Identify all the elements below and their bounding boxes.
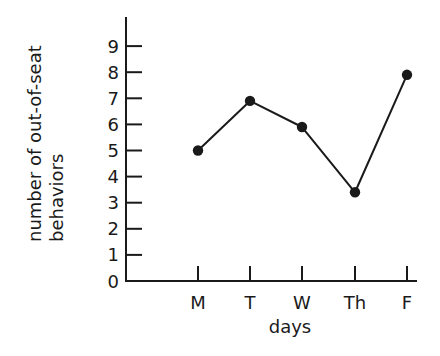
y-tick-label: 3	[108, 192, 119, 213]
y-tick-label: 0	[108, 271, 119, 292]
y-axis-title-line: behaviors	[46, 154, 67, 242]
x-tick-label: T	[244, 292, 257, 313]
x-axis: MTWThF	[125, 266, 417, 313]
x-tick-label: W	[293, 292, 311, 313]
x-axis-title: days	[269, 316, 312, 337]
y-tick-label: 4	[108, 166, 119, 187]
y-axis: 0123456789	[108, 17, 142, 292]
data-point-marker	[402, 70, 412, 80]
data-point-marker	[350, 187, 360, 197]
series-line	[198, 75, 407, 192]
data-point-marker	[245, 96, 255, 106]
line-chart: number of out-of-seatbehaviors 012345678…	[0, 0, 440, 356]
x-tick-label: F	[402, 292, 412, 313]
x-tick-label: M	[190, 292, 206, 313]
y-tick-label: 9	[108, 36, 119, 57]
x-tick-label: Th	[343, 292, 366, 313]
data-point-marker	[297, 122, 307, 132]
y-tick-label: 1	[108, 244, 119, 265]
y-tick-label: 7	[108, 88, 119, 109]
y-axis-title: number of out-of-seatbehaviors	[24, 45, 67, 242]
y-tick-label: 8	[108, 62, 119, 83]
y-tick-label: 2	[108, 218, 119, 239]
y-axis-title-line: number of out-of-seat	[24, 45, 45, 242]
data-point-marker	[193, 145, 203, 155]
x-axis-title-text: days	[269, 316, 312, 337]
y-tick-label: 5	[108, 140, 119, 161]
chart-canvas: number of out-of-seatbehaviors 012345678…	[0, 0, 440, 356]
y-tick-label: 6	[108, 114, 119, 135]
data-series	[193, 70, 412, 198]
